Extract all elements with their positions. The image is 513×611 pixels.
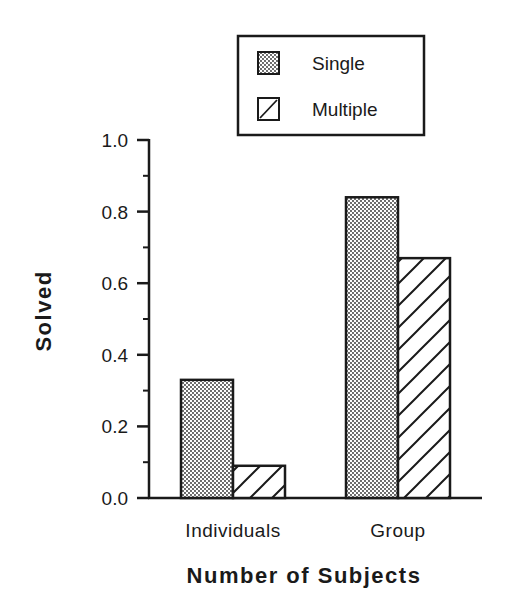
- bars-group: [181, 197, 450, 498]
- legend-label-single: Single: [312, 53, 365, 74]
- y-axis-title: Solved: [31, 270, 56, 351]
- bar-individuals-single: [181, 380, 233, 498]
- y-tick-label: 1.0: [102, 130, 128, 151]
- y-tick-label: 0.0: [102, 488, 128, 509]
- y-tick-label: 0.8: [102, 202, 128, 223]
- bar-chart: 0.00.20.40.60.81.0 Individuals Group Num…: [0, 0, 513, 611]
- legend-item-multiple: Multiple: [258, 98, 377, 120]
- y-tick-label: 0.6: [102, 273, 128, 294]
- legend-label-multiple: Multiple: [312, 99, 377, 120]
- y-tick-label: 0.2: [102, 416, 128, 437]
- bar-individuals-multiple: [233, 466, 285, 498]
- category-label-group: Group: [370, 520, 425, 541]
- legend: Single Multiple: [238, 36, 424, 135]
- category-label-individuals: Individuals: [185, 520, 280, 541]
- x-axis-title: Number of Subjects: [187, 563, 422, 588]
- bar-group-single: [346, 197, 398, 498]
- y-axis: 0.00.20.40.60.81.0: [102, 130, 149, 509]
- legend-item-single: Single: [258, 52, 365, 74]
- y-tick-label: 0.4: [102, 345, 129, 366]
- bar-group-multiple: [398, 258, 450, 498]
- stipple-swatch-icon: [258, 52, 279, 74]
